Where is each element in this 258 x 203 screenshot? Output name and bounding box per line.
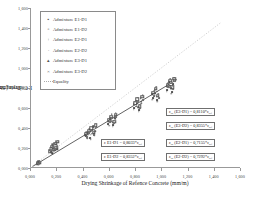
x-tick-label: 0,400 xyxy=(78,174,88,179)
data-point xyxy=(86,136,88,138)
y-tick-mark xyxy=(28,108,31,109)
legend-item[interactable]: +Admixture E2-D1 xyxy=(44,35,113,45)
data-point xyxy=(142,99,144,101)
data-point xyxy=(93,134,95,136)
y-tick-mark xyxy=(28,48,31,49)
equation-body: (E2-D2) = 0,7292*ε xyxy=(173,154,209,159)
data-point xyxy=(156,91,158,93)
y-tick-mark xyxy=(28,8,31,9)
data-point xyxy=(158,93,160,95)
data-point xyxy=(152,99,154,101)
y-tick-mark xyxy=(28,88,31,89)
data-point xyxy=(156,86,158,88)
data-point xyxy=(113,123,115,125)
x-tick-mark xyxy=(214,168,215,171)
equation-tail-subscript: ref xyxy=(209,156,212,160)
y-tick-label: 0,400 xyxy=(0,126,28,131)
equation-body: (E3-D2) = 0,8355*ε xyxy=(173,123,209,128)
legend-item-label: Admixture E1-D1 xyxy=(53,17,87,22)
data-point xyxy=(53,151,55,153)
y-tick-label: 0,000 xyxy=(0,166,28,171)
equation-box-e2d1: εcs (E2-D1) = 0,7155*εref xyxy=(166,139,215,147)
data-point xyxy=(111,118,113,120)
data-point xyxy=(156,101,158,103)
equation-box-e3d2: εcs (E3-D2) = 0,8355*εref xyxy=(166,122,215,130)
chart-legend: ▪Admixture E1-D1▫Admixture E1-D2+Admixtu… xyxy=(40,11,116,90)
data-point xyxy=(109,122,111,124)
data-point xyxy=(135,106,137,108)
data-point xyxy=(39,161,41,163)
x-tick-label: 1,000 xyxy=(156,174,166,179)
data-point xyxy=(57,142,59,144)
legend-item-label: Admixture E3-D1 xyxy=(53,58,87,63)
y-tick-mark xyxy=(28,28,31,29)
legend-item[interactable]: ·Admixture E2-D2 xyxy=(44,45,113,55)
x-tick-mark xyxy=(109,168,110,171)
data-point xyxy=(52,146,54,148)
legend-item[interactable]: ▫Admixture E1-D2 xyxy=(44,24,113,34)
data-point xyxy=(137,101,139,103)
data-point xyxy=(171,85,173,87)
legend-item[interactable]: ▴Admixture E3-D1 xyxy=(44,56,113,66)
data-point xyxy=(113,120,115,122)
data-point xyxy=(166,91,168,93)
x-tick-label: 0,000 xyxy=(25,174,35,179)
data-point xyxy=(85,131,87,133)
equation-box-e1d1: ε E1-D1 = 0,8033*εref xyxy=(101,139,145,147)
data-point xyxy=(172,89,174,91)
data-point xyxy=(37,163,39,165)
data-point xyxy=(115,112,117,114)
y-tick-label: 0,600 xyxy=(0,106,28,111)
x-tick-label: 1,200 xyxy=(183,174,193,179)
y-tick-label: 0,200 xyxy=(0,146,28,151)
y-tick-mark xyxy=(28,68,31,69)
epsilon-subscript: cs xyxy=(171,142,173,146)
epsilon-subscript: cs xyxy=(171,125,173,129)
data-point xyxy=(173,85,175,87)
drying-shrinkage-scatter-chart: Drying Shrinkage ofE Concrete (mm/m) 0,0… xyxy=(0,0,258,203)
equation-tail-subscript: ref xyxy=(139,142,142,146)
equation-body: E1-D2 = 0,8352*ε xyxy=(106,154,139,159)
x-tick-mark xyxy=(83,168,84,171)
legend-item[interactable]: Equality xyxy=(44,76,113,86)
legend-item-label: Admixture E2-D1 xyxy=(53,37,87,42)
equation-box-e2d2: εcs (E2-D2) = 0,7292*εref xyxy=(166,153,215,161)
data-point xyxy=(53,143,55,145)
y-tick-label: 0,800 xyxy=(0,86,28,91)
equation-tail-subscript: ref xyxy=(209,142,212,146)
data-point xyxy=(138,111,140,113)
x-tick-mark xyxy=(135,168,136,171)
legend-item-label: Admixture E2-D2 xyxy=(53,48,87,53)
data-point xyxy=(111,113,113,115)
data-point xyxy=(133,109,135,111)
data-point xyxy=(139,107,141,109)
plus-marker-icon: + xyxy=(44,37,53,42)
x-axis-title: Drying Shrinkage of Refence Concrete (mm… xyxy=(30,180,240,186)
y-tick-mark xyxy=(28,148,31,149)
data-point xyxy=(92,131,94,133)
data-point xyxy=(88,132,90,134)
legend-item[interactable]: ×Admixture E3-D2 xyxy=(44,66,113,76)
data-point xyxy=(153,90,155,92)
square-marker-icon: ▪ xyxy=(44,17,53,22)
data-point xyxy=(171,93,173,95)
x-tick-mark xyxy=(188,168,189,171)
square-open-marker-icon: ▫ xyxy=(44,27,53,32)
epsilon-subscript: cs xyxy=(171,111,173,115)
x-tick-label: 1,400 xyxy=(209,174,219,179)
data-point xyxy=(173,77,175,79)
legend-item[interactable]: ▪Admixture E1-D1 xyxy=(44,14,113,24)
x-tick-mark xyxy=(240,168,241,171)
x-tick-label: 0,600 xyxy=(104,174,114,179)
legend-item-label: Admixture E1-D2 xyxy=(53,27,87,32)
dot-marker-icon: · xyxy=(44,48,53,53)
x-tick-label: 0,200 xyxy=(51,174,61,179)
data-point xyxy=(90,129,92,131)
data-point xyxy=(153,95,155,97)
y-tick-label: 1,200 xyxy=(0,46,28,51)
data-point xyxy=(90,134,92,136)
data-point xyxy=(88,128,90,130)
x-tick-mark xyxy=(161,168,162,171)
x-tick-mark xyxy=(56,168,57,171)
legend-item-label: Admixture E3-D2 xyxy=(53,69,87,74)
